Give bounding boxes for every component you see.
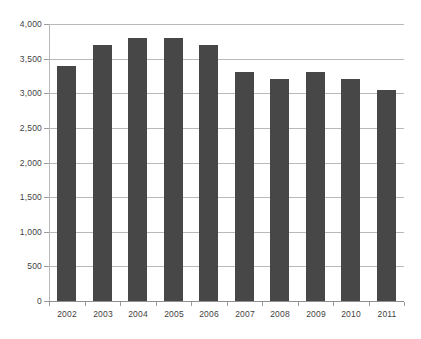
y-tick-label: 1,000 <box>20 228 42 237</box>
x-tick-label-2003: 2003 <box>85 310 121 319</box>
x-tick-mark <box>120 302 121 306</box>
x-tick-mark <box>227 302 228 306</box>
y-tick-label: 0 <box>37 297 42 306</box>
bar-2011[interactable] <box>377 90 396 301</box>
x-tick-label-2006: 2006 <box>191 310 227 319</box>
plot-area <box>49 24 404 301</box>
x-tick-mark <box>191 302 192 306</box>
x-tick-mark <box>49 302 50 306</box>
x-tick-mark <box>404 302 405 306</box>
y-tick-label: 2,000 <box>20 159 42 168</box>
bar-2003[interactable] <box>93 45 112 301</box>
bar-2004[interactable] <box>128 38 147 301</box>
x-tick-label-2010: 2010 <box>333 310 369 319</box>
bar-2002[interactable] <box>57 66 76 301</box>
x-tick-label-2011: 2011 <box>369 310 405 319</box>
x-tick-label-2005: 2005 <box>156 310 192 319</box>
x-tick-mark <box>85 302 86 306</box>
bar-2010[interactable] <box>341 79 360 301</box>
x-tick-mark <box>156 302 157 306</box>
bar-2006[interactable] <box>199 45 218 301</box>
x-tick-mark <box>333 302 334 306</box>
bar-chart: 05001,0001,5002,0002,5003,0003,5004,000 … <box>0 0 421 339</box>
y-tick-label: 3,500 <box>20 55 42 64</box>
bar-2009[interactable] <box>306 72 325 301</box>
y-tick-label: 3,000 <box>20 89 42 98</box>
bar-2007[interactable] <box>235 72 254 301</box>
y-tick-label: 4,000 <box>20 20 42 29</box>
y-tick-label: 500 <box>27 262 42 271</box>
x-tick-mark <box>369 302 370 306</box>
y-tick-label: 1,500 <box>20 193 42 202</box>
bar-2005[interactable] <box>164 38 183 301</box>
x-tick-label-2007: 2007 <box>227 310 263 319</box>
x-tick-mark <box>298 302 299 306</box>
x-tick-label-2009: 2009 <box>298 310 334 319</box>
bar-2008[interactable] <box>270 79 289 301</box>
x-tick-mark <box>262 302 263 306</box>
x-tick-label-2002: 2002 <box>49 310 85 319</box>
x-tick-label-2004: 2004 <box>120 310 156 319</box>
y-tick-label: 2,500 <box>20 124 42 133</box>
x-tick-label-2008: 2008 <box>262 310 298 319</box>
